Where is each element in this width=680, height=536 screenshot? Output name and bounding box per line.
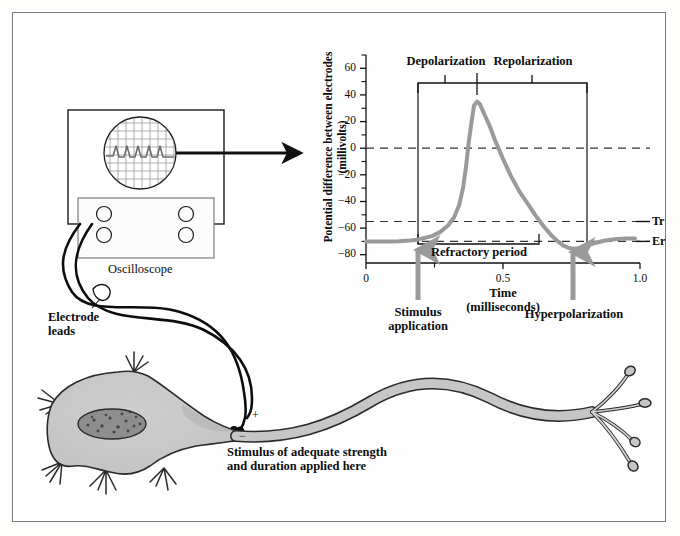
resting-line-label: Er [652, 235, 665, 249]
y-tick-label: −60 [330, 221, 356, 234]
axon-terminals [592, 364, 651, 473]
stimulus-application-label-line2: application [372, 319, 464, 333]
stimulus-note-line2: and duration applied here [227, 459, 366, 473]
stimulus-application-label-line1: Stimulus [378, 305, 458, 319]
repolarization-label: Repolarization [483, 54, 583, 68]
synaptic-bouton [639, 399, 651, 407]
phase-boundary-lines [418, 83, 587, 244]
oscilloscope[interactable] [68, 110, 224, 258]
membrane-potential-curve [366, 102, 635, 249]
y-tick-label: 0 [338, 141, 356, 154]
action-potential-graph [360, 55, 650, 300]
x-axis-ticks [366, 263, 640, 269]
x-tick-label: 0.5 [491, 272, 515, 285]
oscilloscope-label: Oscilloscope [108, 262, 173, 276]
threshold-line-label: Tr [652, 215, 664, 229]
hyperpolarization-label: Hyperpolarization [508, 307, 640, 321]
negative-electrode-marker: − [239, 430, 246, 444]
y-tick-label: −40 [330, 194, 356, 207]
x-axis-label-line1: Time [472, 286, 534, 300]
y-tick-label: 40 [338, 88, 356, 101]
electrode-lead-bundle-marker [92, 285, 110, 308]
y-tick-label: 60 [338, 61, 356, 74]
oscilloscope-control-panel [78, 198, 214, 258]
y-tick-label: 20 [338, 114, 356, 127]
oscilloscope-screen-icon [104, 117, 176, 189]
x-tick-label: 0 [358, 272, 374, 285]
stimulus-note-line1: Stimulus of adequate strength [227, 445, 387, 459]
electrode-leads-label-line1: Electrode [48, 310, 99, 324]
y-tick-label: −20 [330, 168, 356, 181]
neuron-nucleus [78, 409, 146, 439]
y-tick-label: −80 [330, 247, 356, 260]
reference-line-end-ticks [636, 222, 650, 242]
figure-root: Oscilloscope Electrode leads + − Stimulu… [0, 0, 680, 536]
electrode-leads-label-line2: leads [48, 324, 75, 338]
x-tick-label: 1.0 [628, 272, 652, 285]
phase-bracket [418, 73, 587, 95]
depolarization-label: Depolarization [396, 54, 496, 68]
refractory-period-label: Refractory period [418, 245, 540, 259]
positive-electrode-marker: + [252, 409, 259, 423]
